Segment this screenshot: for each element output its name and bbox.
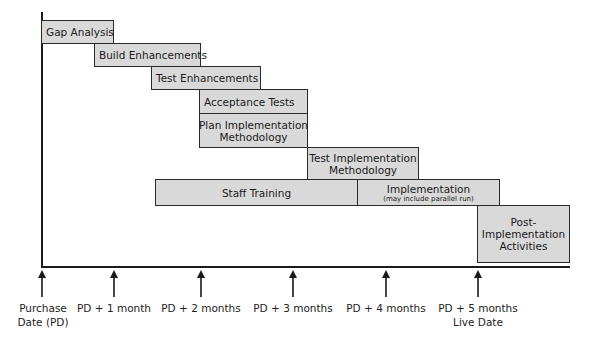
task-label-line1: Plan Implementation — [199, 119, 308, 131]
vertical-axis — [41, 12, 43, 268]
task-label: Acceptance Tests — [204, 96, 295, 108]
up-arrow-icon — [473, 270, 483, 297]
milestone-line1: PD + 2 months — [161, 301, 240, 315]
milestone-purchase-date: Purchase Date (PD) — [17, 301, 68, 329]
task-label-line1: Post- — [511, 216, 537, 228]
task-acceptance-tests: Acceptance Tests — [199, 89, 308, 114]
task-post-implementation-activities: Post- Implementation Activities — [477, 205, 570, 263]
task-label-line3: Activities — [500, 240, 548, 252]
milestone-live-date: PD + 5 months Live Date — [438, 301, 517, 329]
task-plan-implementation-methodology: Plan Implementation Methodology — [199, 113, 308, 148]
up-arrow-icon — [109, 270, 119, 297]
task-label: Build Enhancements — [99, 49, 207, 61]
up-arrow-icon — [196, 270, 206, 297]
task-label: Implementation — [387, 183, 470, 195]
milestone-pd-4-months: PD + 4 months — [346, 301, 425, 315]
milestone-line1: PD + 5 months — [438, 301, 517, 315]
task-label-line1: Test Implementation — [309, 152, 416, 164]
task-note: (may include parallel run) — [383, 195, 474, 203]
milestone-line1: Purchase — [17, 301, 68, 315]
task-label-line2: Methodology — [219, 131, 287, 143]
up-arrow-icon — [288, 270, 298, 297]
up-arrow-icon — [37, 270, 47, 297]
milestone-line1: PD + 3 months — [253, 301, 332, 315]
milestone-pd-2-months: PD + 2 months — [161, 301, 240, 315]
milestone-line1: PD + 4 months — [346, 301, 425, 315]
task-test-enhancements: Test Enhancements — [151, 66, 261, 90]
task-label-line2: Methodology — [329, 164, 397, 176]
task-label-line2: Implementation — [482, 228, 565, 240]
time-axis — [41, 266, 570, 268]
task-build-enhancements: Build Enhancements — [94, 43, 201, 67]
task-test-implementation-methodology: Test Implementation Methodology — [307, 147, 419, 180]
task-implementation: Implementation (may include parallel run… — [357, 179, 500, 206]
task-label: Staff Training — [222, 187, 291, 199]
task-label: Test Enhancements — [156, 72, 258, 84]
task-staff-training: Staff Training — [155, 179, 358, 206]
milestone-line1: PD + 1 month — [77, 301, 151, 315]
milestone-pd-1-month: PD + 1 month — [77, 301, 151, 315]
milestone-line2: Date (PD) — [17, 315, 68, 329]
milestone-line2: Live Date — [438, 315, 517, 329]
task-label: Gap Analysis — [46, 26, 114, 38]
task-gap-analysis: Gap Analysis — [41, 20, 114, 44]
milestone-pd-3-months: PD + 3 months — [253, 301, 332, 315]
up-arrow-icon — [381, 270, 391, 297]
